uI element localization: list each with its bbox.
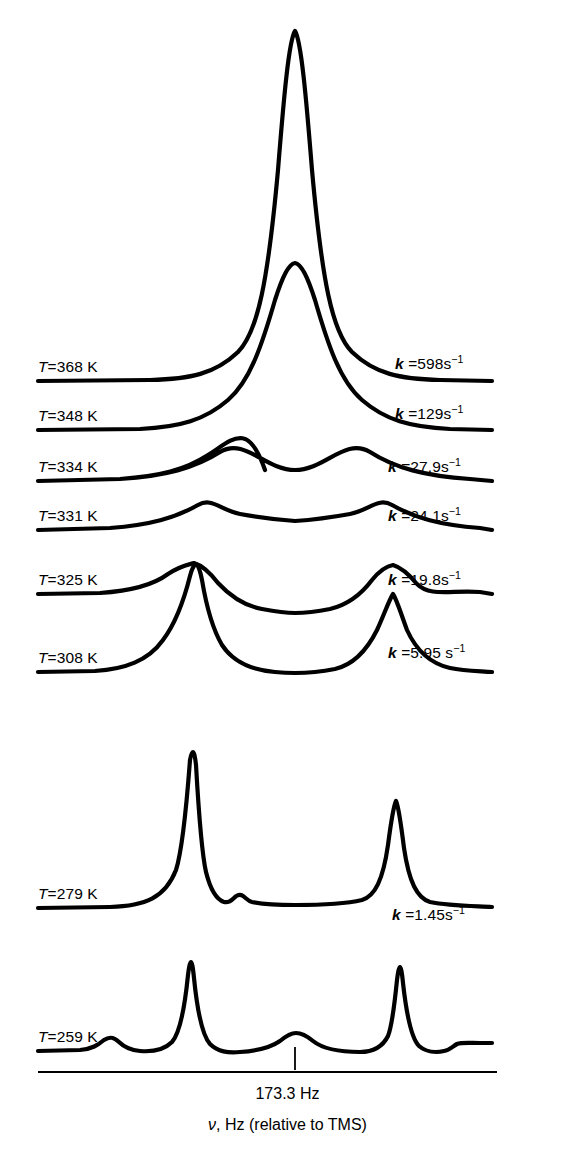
rate-symbol: k xyxy=(395,355,404,372)
rate-equals: = xyxy=(401,507,410,524)
rate-label-368: k =598s−1 xyxy=(395,356,464,372)
rate-symbol: k xyxy=(392,906,401,923)
rate-exponent: −1 xyxy=(449,569,461,581)
rate-exponent: −1 xyxy=(453,904,465,916)
temperature-symbol: T xyxy=(38,885,48,902)
nu-symbol: ν xyxy=(208,1116,216,1133)
trace-curve-259 xyxy=(38,962,492,1052)
rate-value: 5.95 xyxy=(410,644,441,661)
x-axis-tick-label: 173.3 Hz xyxy=(0,1085,575,1103)
rate-value: 24.1 xyxy=(410,507,441,524)
temperature-equals: = xyxy=(48,358,57,375)
rate-value: 1.45 xyxy=(414,906,445,923)
x-axis-caption: ν, Hz (relative to TMS) xyxy=(0,1116,575,1134)
temperature-symbol: T xyxy=(38,649,48,666)
rate-exponent: −1 xyxy=(451,403,463,415)
temperature-value: 259 K xyxy=(57,1028,98,1045)
rate-exponent: −1 xyxy=(453,642,465,654)
temperature-symbol: T xyxy=(38,407,48,424)
temperature-symbol: T xyxy=(38,1028,48,1045)
temperature-equals: = xyxy=(48,407,57,424)
temperature-symbol: T xyxy=(38,507,48,524)
rate-exponent: −1 xyxy=(449,456,461,468)
rate-unit: s xyxy=(445,906,453,923)
temperature-label-259: T=259 K xyxy=(38,1029,98,1045)
rate-equals: = xyxy=(405,906,414,923)
rate-symbol: k xyxy=(388,571,397,588)
temperature-label-279: T=279 K xyxy=(38,886,98,902)
rate-equals: = xyxy=(408,405,417,422)
temperature-equals: = xyxy=(48,885,57,902)
temperature-equals: = xyxy=(48,649,57,666)
rate-equals: = xyxy=(401,458,410,475)
temperature-equals: = xyxy=(48,571,57,588)
temperature-equals: = xyxy=(48,1028,57,1045)
rate-exponent: −1 xyxy=(451,353,463,365)
temperature-equals: = xyxy=(48,458,57,475)
rate-value: 598 xyxy=(417,355,443,372)
temperature-label-348: T=348 K xyxy=(38,408,98,424)
rate-unit: s xyxy=(441,571,449,588)
temperature-value: 334 K xyxy=(57,458,98,475)
temperature-value: 325 K xyxy=(57,571,98,588)
rate-symbol: k xyxy=(395,405,404,422)
rate-value: 19.8 xyxy=(410,571,441,588)
temperature-label-368: T=368 K xyxy=(38,359,98,375)
rate-equals: = xyxy=(408,355,417,372)
temperature-symbol: T xyxy=(38,358,48,375)
temperature-value: 331 K xyxy=(57,507,98,524)
rate-unit: s xyxy=(441,458,449,475)
temperature-value: 368 K xyxy=(57,358,98,375)
rate-label-279: k =1.45s−1 xyxy=(392,907,465,923)
nmr-lineshape-figure: T=368 K T=348 K T=334 K T=331 K T=325 K … xyxy=(0,0,575,1159)
temperature-value: 348 K xyxy=(57,407,98,424)
temperature-label-334: T=334 K xyxy=(38,459,98,475)
temperature-label-331: T=331 K xyxy=(38,508,98,524)
rate-label-334: k =27.9s−1 xyxy=(388,459,461,475)
rate-equals: = xyxy=(401,644,410,661)
rate-label-331: k =24.1s−1 xyxy=(388,508,461,524)
rate-unit: s xyxy=(441,507,449,524)
rate-unit: s xyxy=(445,644,453,661)
rate-exponent: −1 xyxy=(449,505,461,517)
temperature-label-308: T=308 K xyxy=(38,650,98,666)
temperature-value: 279 K xyxy=(57,885,98,902)
temperature-symbol: T xyxy=(38,571,48,588)
rate-symbol: k xyxy=(388,644,397,661)
rate-label-348: k =129s−1 xyxy=(395,406,464,422)
rate-label-325: k =19.8s−1 xyxy=(388,572,461,588)
rate-symbol: k xyxy=(388,458,397,475)
x-axis-caption-text: , Hz (relative to TMS) xyxy=(216,1116,367,1133)
temperature-symbol: T xyxy=(38,458,48,475)
temperature-label-325: T=325 K xyxy=(38,572,98,588)
temperature-value: 308 K xyxy=(57,649,98,666)
rate-value: 129 xyxy=(417,405,443,422)
rate-label-308: k =5.95 s−1 xyxy=(388,645,465,661)
rate-value: 27.9 xyxy=(410,458,441,475)
temperature-equals: = xyxy=(48,507,57,524)
trace-curve-279 xyxy=(38,752,492,908)
rate-equals: = xyxy=(401,571,410,588)
rate-symbol: k xyxy=(388,507,397,524)
